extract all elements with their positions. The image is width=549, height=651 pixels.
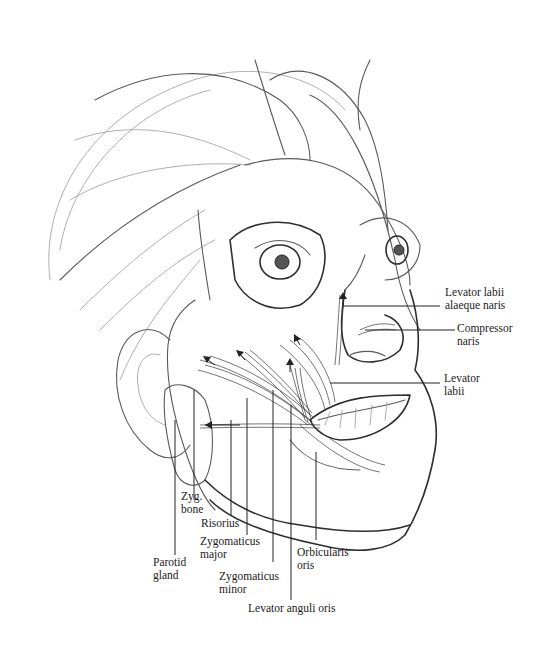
label-line: major <box>200 548 260 561</box>
label-line: Zygomaticus <box>200 535 260 548</box>
label-line: Levator <box>444 372 480 385</box>
label-line: oris <box>297 559 349 572</box>
label-zygomaticus-major: Zygomaticus major <box>200 535 260 561</box>
label-line: Levator labii <box>445 286 505 299</box>
label-compressor-naris: Compressor naris <box>457 322 513 348</box>
label-line: Orbicularis <box>297 546 349 559</box>
nose <box>342 255 404 362</box>
arrows <box>203 292 347 429</box>
label-risorius: Risorius <box>201 517 239 530</box>
eyes <box>230 218 420 308</box>
label-levator-labii-alaeque-naris: Levator labii alaeque naris <box>445 286 505 312</box>
label-line: alaeque naris <box>445 299 505 312</box>
label-line: Levator anguli oris <box>248 602 336 615</box>
ear <box>117 330 190 458</box>
label-zyg-bone: Zyg. bone <box>181 490 203 516</box>
label-parotid-gland: Parotid gland <box>153 556 186 582</box>
label-line: Zyg. <box>181 490 203 503</box>
label-line: Parotid <box>153 556 186 569</box>
label-zygomaticus-minor: Zygomaticus minor <box>219 570 279 596</box>
label-orbicularis-oris: Orbicularis oris <box>297 546 349 572</box>
label-levator-labii: Levator labii <box>444 372 480 398</box>
label-levator-anguli-oris: Levator anguli oris <box>248 602 336 615</box>
label-line: labii <box>444 385 480 398</box>
label-line: bone <box>181 503 203 516</box>
label-line: minor <box>219 583 279 596</box>
label-line: naris <box>457 335 513 348</box>
label-line: Zygomaticus <box>219 570 279 583</box>
label-line: Risorius <box>201 517 239 530</box>
hair <box>49 60 420 380</box>
label-line: gland <box>153 569 186 582</box>
label-line: Compressor <box>457 322 513 335</box>
